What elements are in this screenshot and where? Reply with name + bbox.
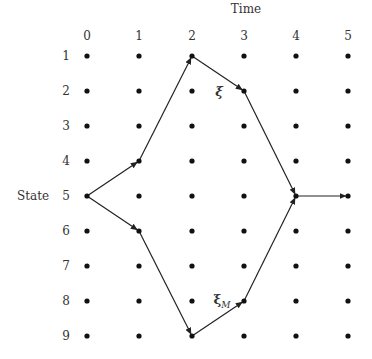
lattice-node	[241, 123, 246, 128]
lattice-node	[293, 53, 298, 58]
lattice-node	[136, 333, 141, 338]
lattice-node	[241, 298, 246, 303]
xi-label: ξ	[215, 84, 223, 99]
lattice-node	[293, 158, 298, 163]
lattice-node	[293, 228, 298, 233]
lattice-node	[189, 333, 194, 338]
lattice-node	[189, 88, 194, 93]
lattice-node	[84, 158, 89, 163]
lattice-node	[345, 123, 350, 128]
lattice-node	[241, 193, 246, 198]
lattice-node	[345, 228, 350, 233]
lattice-node	[241, 88, 246, 93]
path-edge-xi-m	[244, 198, 295, 301]
path-edge-xi	[139, 58, 191, 161]
path-edge-xi	[87, 162, 137, 196]
lattice-node	[345, 53, 350, 58]
lattice-node	[189, 298, 194, 303]
lattice-node	[241, 158, 246, 163]
lattice-node	[345, 263, 350, 268]
lattice-node	[136, 88, 141, 93]
lattice-node	[293, 333, 298, 338]
lattice-node	[136, 228, 141, 233]
lattice-node	[84, 53, 89, 58]
lattice-node	[293, 88, 298, 93]
lattice-node	[136, 53, 141, 58]
lattice-node	[84, 88, 89, 93]
lattice-node	[189, 158, 194, 163]
lattice-node	[189, 263, 194, 268]
lattice-node	[84, 228, 89, 233]
lattice-node	[345, 333, 350, 338]
path-edge-xi-m	[87, 196, 137, 230]
lattice-node	[84, 193, 89, 198]
lattice-node	[84, 333, 89, 338]
lattice-node	[345, 298, 350, 303]
xi-m-label: ξM	[214, 292, 231, 310]
lattice-node	[293, 263, 298, 268]
lattice-node	[189, 193, 194, 198]
lattice-node	[136, 193, 141, 198]
lattice-node	[293, 123, 298, 128]
lattice-node	[84, 298, 89, 303]
lattice-node	[293, 193, 298, 198]
lattice-node	[241, 333, 246, 338]
path-edge-xi-m	[139, 231, 191, 334]
lattice-node	[136, 158, 141, 163]
lattice-node	[189, 53, 194, 58]
lattice-node	[345, 88, 350, 93]
state-time-lattice	[0, 0, 372, 359]
lattice-node	[241, 53, 246, 58]
lattice-node	[84, 263, 89, 268]
lattice-node	[189, 228, 194, 233]
lattice-node	[241, 263, 246, 268]
lattice-node	[345, 158, 350, 163]
lattice-node	[136, 298, 141, 303]
lattice-node	[136, 263, 141, 268]
lattice-node	[293, 298, 298, 303]
lattice-node	[189, 123, 194, 128]
lattice-node	[241, 228, 246, 233]
lattice-node	[136, 123, 141, 128]
lattice-node	[84, 123, 89, 128]
path-edge-xi	[244, 91, 295, 194]
lattice-node	[345, 193, 350, 198]
